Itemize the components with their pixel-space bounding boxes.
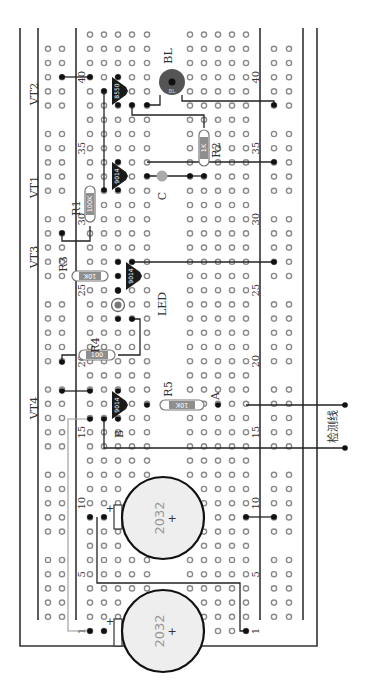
resistor-R3: 10K [72, 271, 108, 281]
svg-text:+: + [106, 503, 114, 514]
svg-text:C: C [156, 192, 169, 200]
resistor-R2: 1K [199, 130, 209, 166]
svg-text:BL: BL [169, 88, 177, 94]
svg-text:9014: 9014 [113, 397, 120, 412]
svg-text:B: B [113, 430, 126, 438]
capacitor-C [157, 171, 168, 182]
svg-text:10: 10 [250, 497, 261, 510]
detection-line-label: 检测线 [326, 410, 340, 443]
transistor-VT4: 9014 [112, 391, 128, 419]
svg-text:30: 30 [250, 213, 261, 226]
svg-text:VT2: VT2 [28, 83, 41, 106]
transistor-VT2: 8550 [112, 77, 128, 105]
svg-text:10K: 10K [175, 401, 188, 409]
svg-text:15: 15 [250, 426, 261, 439]
svg-text:2032: 2032 [152, 501, 167, 534]
svg-text:20: 20 [250, 355, 261, 368]
buzzer-label: BL [162, 48, 175, 64]
svg-text:5: 5 [76, 571, 87, 577]
svg-text:8550: 8550 [113, 83, 120, 98]
svg-text:VT1: VT1 [28, 176, 41, 199]
svg-text:R2: R2 [210, 142, 223, 157]
transistor-VT1: 9014 [112, 162, 128, 190]
svg-text:+: + [106, 616, 114, 627]
svg-text:9014: 9014 [127, 268, 134, 283]
svg-text:R3: R3 [57, 256, 70, 271]
svg-text:R5: R5 [162, 381, 175, 396]
svg-text:35: 35 [250, 142, 261, 155]
svg-text:100K: 100K [86, 195, 94, 212]
svg-text:40: 40 [250, 71, 261, 84]
svg-text:A: A [209, 391, 222, 401]
svg-text:9014: 9014 [113, 168, 120, 183]
svg-text:+: + [167, 625, 176, 638]
svg-text:25: 25 [250, 284, 261, 297]
svg-text:15: 15 [76, 426, 87, 439]
led [112, 299, 125, 312]
svg-text:+: + [167, 512, 176, 525]
svg-text:10: 10 [76, 497, 87, 510]
transistor-VT3: 9014 [126, 262, 142, 290]
buzzer-BL: BL [159, 69, 185, 95]
svg-text:10K: 10K [83, 272, 96, 280]
resistor-R1: 100K [85, 186, 95, 222]
svg-text:LED: LED [156, 292, 169, 316]
svg-text:1: 1 [250, 628, 261, 634]
component-labels: VT2 VT1 VT3 VT4 R1 R2 R3 R4 R5 C LED A B… [28, 83, 340, 443]
svg-text:VT4: VT4 [28, 397, 41, 420]
svg-text:5: 5 [250, 571, 261, 577]
svg-text:R1: R1 [70, 200, 83, 215]
svg-text:1K: 1K [200, 143, 208, 152]
breadboard-diagram: 11551010151520202525303035354040 [0, 0, 370, 693]
svg-text:2032: 2032 [152, 614, 167, 647]
svg-text:25: 25 [76, 284, 87, 297]
resistor-R5: 10K [160, 400, 204, 410]
svg-text:R4: R4 [89, 337, 102, 352]
svg-text:35: 35 [76, 142, 87, 155]
svg-text:VT3: VT3 [28, 246, 41, 269]
